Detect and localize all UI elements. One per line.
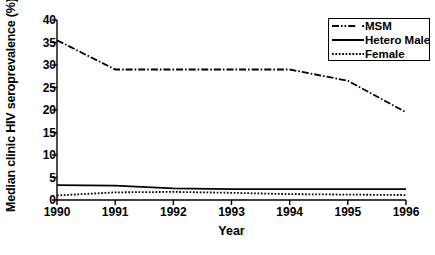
chart-legend: MSM Hetero Male Female: [328, 18, 430, 61]
x-tick-label: 1996: [376, 205, 435, 219]
legend-entry-msm: MSM: [329, 19, 429, 33]
series-lines: [57, 40, 406, 195]
series-line-female: [57, 192, 406, 196]
x-tick-label: 1990: [27, 205, 87, 219]
page-bottom-artifact: [0, 243, 435, 255]
legend-swatch-dash-dot-icon: [331, 20, 365, 32]
legend-entry-hetero-male: Hetero Male: [329, 33, 429, 47]
x-tick-label: 1993: [202, 205, 262, 219]
x-tick-label: 1992: [143, 205, 203, 219]
legend-swatch-solid-icon: [331, 34, 365, 46]
legend-label-msm: MSM: [365, 20, 392, 32]
x-tick-label: 1991: [85, 205, 145, 219]
legend-label-hetero-male: Hetero Male: [365, 34, 430, 46]
legend-entry-female: Female: [329, 47, 429, 61]
x-tick-label: 1995: [318, 205, 378, 219]
legend-label-female: Female: [365, 48, 405, 60]
chart-figure: Median clinic HIV seroprevalence (%) 051…: [0, 0, 435, 255]
series-line-hetero-male: [57, 185, 406, 189]
legend-swatch-dotted-icon: [331, 48, 365, 60]
x-tick-label: 1994: [260, 205, 320, 219]
x-axis-title: Year: [57, 224, 406, 238]
